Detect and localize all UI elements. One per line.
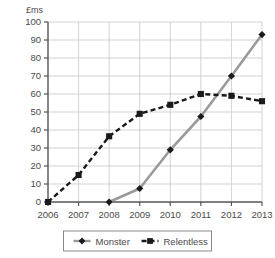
square-marker-icon <box>259 98 265 104</box>
x-axis-tick-label: 2007 <box>68 209 89 220</box>
legend-label: Relentless <box>164 236 209 247</box>
series-monster <box>106 31 266 206</box>
square-marker-icon <box>198 91 204 97</box>
x-axis-tick-label: 2008 <box>99 209 120 220</box>
square-marker-icon <box>106 133 112 139</box>
y-axis-tick-label: 0 <box>36 196 41 207</box>
series-layer <box>45 31 266 206</box>
y-axis-tick-label: 40 <box>30 124 41 135</box>
y-axis-tick-label: 80 <box>30 52 41 63</box>
square-marker-icon <box>76 172 82 178</box>
square-marker-icon <box>137 111 143 117</box>
x-axis-tick-label: 2012 <box>221 209 242 220</box>
chart-container: £ms 0102030405060708090100 2006200720082… <box>0 0 275 258</box>
y-axis-tick-label: 70 <box>30 70 41 81</box>
x-axis-tick-label: 2013 <box>251 209 272 220</box>
axis-layer <box>44 22 262 206</box>
y-axis-tick-label: 90 <box>30 34 41 45</box>
x-axis-tick-label: 2006 <box>37 209 58 220</box>
y-axis-tick-label: 20 <box>30 160 41 171</box>
x-axis-tick-label: 2011 <box>191 209 211 220</box>
y-axis-tick-label: 30 <box>30 142 41 153</box>
square-marker-icon <box>147 238 153 244</box>
x-axis-tick-label: 2009 <box>129 209 150 220</box>
line-chart: £ms 0102030405060708090100 2006200720082… <box>0 0 275 258</box>
y-tick-labels: 0102030405060708090100 <box>25 16 41 207</box>
square-marker-icon <box>167 102 173 108</box>
x-axis-tick-label: 2010 <box>160 209 181 220</box>
y-axis-tick-label: 10 <box>30 178 41 189</box>
x-tick-labels: 20062007200820092010201120122013 <box>37 209 272 220</box>
square-marker-icon <box>228 93 234 99</box>
y-axis-tick-label: 100 <box>25 16 41 27</box>
legend-label: Monster <box>96 236 130 247</box>
chart-legend: MonsterRelentless <box>64 231 212 251</box>
square-marker-icon <box>45 199 51 205</box>
y-axis-tick-label: 60 <box>30 88 41 99</box>
y-axis-title: £ms <box>26 5 44 15</box>
y-axis-tick-label: 50 <box>30 106 41 117</box>
